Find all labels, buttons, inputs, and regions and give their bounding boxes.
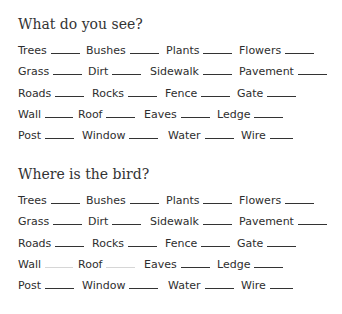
item-label: Dirt — [88, 215, 108, 229]
checklist-row: WallRoofEavesLedge — [18, 107, 143, 128]
answer-blank[interactable] — [201, 236, 230, 247]
item-label: Pavement — [239, 215, 294, 229]
checklist-item: Sidewalk — [150, 214, 232, 229]
item-label: Trees — [18, 44, 47, 58]
answer-blank[interactable] — [254, 257, 283, 268]
answer-blank[interactable] — [270, 278, 293, 289]
checklist-item: Bushes — [86, 43, 159, 58]
answer-blank[interactable] — [298, 64, 327, 75]
answer-blank[interactable] — [203, 214, 232, 225]
checklist-row: TreesBushesPlantsFlowers — [18, 43, 143, 64]
answer-blank[interactable] — [55, 86, 84, 97]
item-label: Gate — [237, 237, 263, 251]
answer-blank[interactable] — [203, 64, 232, 75]
answer-blank[interactable] — [53, 214, 82, 225]
answer-blank[interactable] — [45, 278, 74, 289]
checklist-rows: TreesBushesPlantsFlowersGrassDirtSidewal… — [18, 43, 143, 149]
item-label: Water — [168, 129, 201, 143]
checklist-item: Grass — [18, 64, 82, 79]
answer-blank[interactable] — [130, 43, 159, 54]
checklist-item: Dirt — [88, 214, 141, 229]
item-label: Eaves — [144, 258, 177, 272]
answer-blank[interactable] — [203, 43, 232, 54]
answer-blank[interactable] — [270, 128, 293, 139]
answer-blank[interactable] — [45, 128, 74, 139]
answer-blank[interactable] — [106, 257, 135, 268]
item-label: Sidewalk — [150, 65, 199, 79]
item-label: Ledge — [217, 258, 250, 272]
item-label: Grass — [18, 215, 49, 229]
checklist-item: Roof — [78, 257, 135, 272]
answer-blank[interactable] — [128, 236, 157, 247]
answer-blank[interactable] — [112, 214, 141, 225]
item-label: Rocks — [92, 237, 124, 251]
answer-blank[interactable] — [130, 193, 159, 204]
answer-blank[interactable] — [106, 107, 135, 118]
answer-blank[interactable] — [285, 43, 314, 54]
checklist-item: Trees — [18, 43, 80, 58]
answer-blank[interactable] — [53, 64, 82, 75]
answer-blank[interactable] — [298, 214, 327, 225]
checklist-item: Dirt — [88, 64, 141, 79]
checklist-item: Flowers — [239, 43, 314, 58]
answer-blank[interactable] — [181, 107, 210, 118]
checklist-item: Roads — [18, 86, 84, 101]
answer-blank[interactable] — [112, 64, 141, 75]
checklist-row: RoadsRocksFenceGate — [18, 236, 149, 257]
section-heading: What do you see? — [18, 14, 143, 34]
answer-blank[interactable] — [203, 193, 232, 204]
checklist-item: Post — [18, 278, 74, 293]
checklist-item: Gate — [237, 86, 296, 101]
answer-blank[interactable] — [129, 278, 158, 289]
item-label: Roads — [18, 237, 51, 251]
section-where-is-the-bird: Where is the bird? TreesBushesPlantsFlow… — [18, 164, 149, 299]
answer-blank[interactable] — [55, 236, 84, 247]
checklist-item: Window — [82, 278, 158, 293]
item-label: Plants — [166, 194, 199, 208]
item-label: Trees — [18, 194, 47, 208]
item-label: Pavement — [239, 65, 294, 79]
answer-blank[interactable] — [181, 257, 210, 268]
answer-blank[interactable] — [129, 128, 158, 139]
answer-blank[interactable] — [285, 193, 314, 204]
item-label: Gate — [237, 87, 263, 101]
answer-blank[interactable] — [267, 86, 296, 97]
item-label: Post — [18, 129, 41, 143]
answer-blank[interactable] — [205, 128, 234, 139]
checklist-item: Bushes — [86, 193, 159, 208]
answer-blank[interactable] — [254, 107, 283, 118]
checklist-item: Plants — [166, 43, 232, 58]
answer-blank[interactable] — [51, 193, 80, 204]
answer-blank[interactable] — [267, 236, 296, 247]
item-label: Bushes — [86, 194, 126, 208]
checklist-item: Plants — [166, 193, 232, 208]
checklist-item: Eaves — [144, 107, 210, 122]
answer-blank[interactable] — [201, 86, 230, 97]
checklist-item: Grass — [18, 214, 82, 229]
answer-blank[interactable] — [45, 257, 73, 268]
checklist-row: RoadsRocksFenceGate — [18, 86, 143, 107]
answer-blank[interactable] — [51, 43, 80, 54]
answer-blank[interactable] — [45, 107, 73, 118]
checklist-item: Rocks — [92, 236, 157, 251]
item-label: Eaves — [144, 108, 177, 122]
item-label: Fence — [165, 237, 197, 251]
answer-blank[interactable] — [205, 278, 234, 289]
checklist-row: WallRoofEavesLedge — [18, 257, 149, 278]
checklist-item: Wire — [241, 128, 293, 143]
item-label: Rocks — [92, 87, 124, 101]
checklist-item: Rocks — [92, 86, 157, 101]
answer-blank[interactable] — [128, 86, 157, 97]
checklist-item: Roads — [18, 236, 84, 251]
item-label: Fence — [165, 87, 197, 101]
checklist-item: Wall — [18, 257, 73, 272]
checklist-item: Gate — [237, 236, 296, 251]
item-label: Roads — [18, 87, 51, 101]
section-what-do-you-see: What do you see? TreesBushesPlantsFlower… — [18, 14, 143, 149]
item-label: Ledge — [217, 108, 250, 122]
item-label: Wire — [241, 129, 266, 143]
checklist-rows: TreesBushesPlantsFlowersGrassDirtSidewal… — [18, 193, 149, 299]
checklist-item: Wire — [241, 278, 293, 293]
item-label: Wall — [18, 258, 41, 272]
checklist-item: Pavement — [239, 214, 327, 229]
